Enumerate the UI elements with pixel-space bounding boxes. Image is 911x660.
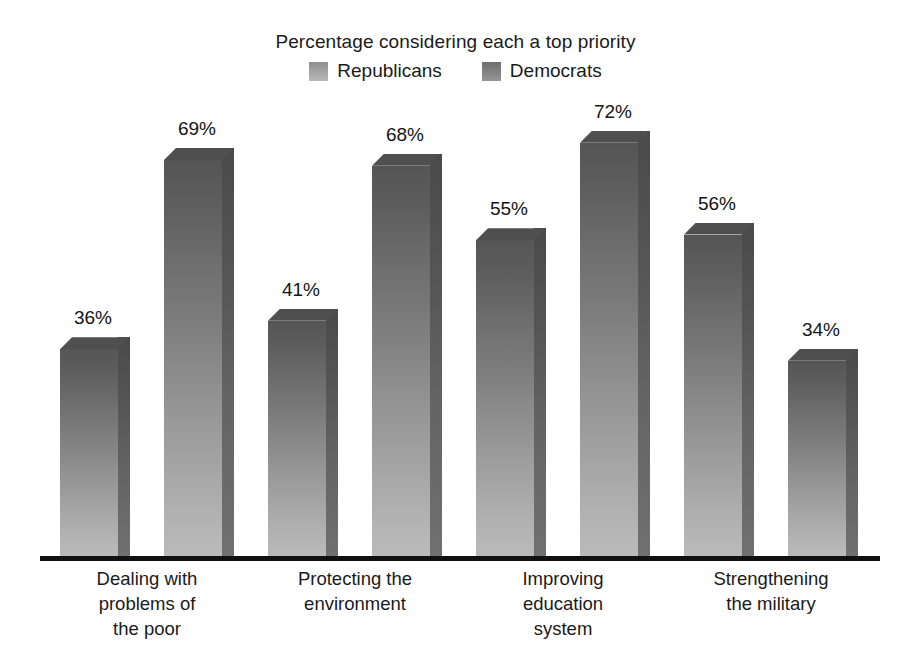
- bar-value-label: 56%: [682, 193, 752, 215]
- bar-side-face: [222, 148, 234, 556]
- x-axis-baseline: [40, 556, 880, 561]
- bar-value-label: 36%: [58, 307, 128, 329]
- category-label-line: the military: [671, 591, 871, 616]
- bar-side-face: [534, 228, 546, 556]
- bar-value-label: 34%: [786, 319, 856, 341]
- category-label-1: Dealing withproblems ofthe poor: [47, 566, 247, 641]
- bar-front-face: [476, 240, 534, 556]
- category-label-line: Protecting the: [255, 566, 455, 591]
- bar-side-face: [638, 131, 650, 556]
- bar-value-label: 72%: [578, 101, 648, 123]
- plot-area: 36%69%41%68%55%72%56%34% Dealing withpro…: [0, 0, 911, 660]
- bar-top-face: [268, 309, 338, 321]
- bar-side-face: [118, 337, 130, 556]
- bar-value-label: 68%: [370, 124, 440, 146]
- category-label-line: environment: [255, 591, 455, 616]
- category-label-line: education: [463, 591, 663, 616]
- bar-front-face: [372, 166, 430, 556]
- bar-top-face: [684, 223, 754, 235]
- bar-side-face: [846, 349, 858, 556]
- bar-side-face: [742, 223, 754, 556]
- category-label-4: Strengtheningthe military: [671, 566, 871, 616]
- bar-top-face: [788, 349, 858, 361]
- bar-value-label: 55%: [474, 198, 544, 220]
- category-label-line: the poor: [47, 616, 247, 641]
- category-label-line: system: [463, 616, 663, 641]
- bar-front-face: [268, 321, 326, 556]
- bar-top-face: [60, 337, 130, 349]
- bar-side-face: [326, 309, 338, 556]
- bar-side-face: [430, 154, 442, 556]
- category-label-line: problems of: [47, 591, 247, 616]
- category-label-line: Improving: [463, 566, 663, 591]
- bar-front-face: [164, 160, 222, 556]
- bar-chart: Percentage considering each a top priori…: [0, 0, 911, 660]
- category-label-2: Protecting theenvironment: [255, 566, 455, 616]
- bar-value-label: 41%: [266, 279, 336, 301]
- bar-top-face: [580, 131, 650, 143]
- bar-top-face: [372, 154, 442, 166]
- category-label-line: Dealing with: [47, 566, 247, 591]
- bar-front-face: [580, 143, 638, 556]
- bar-front-face: [788, 361, 846, 556]
- category-label-3: Improvingeducationsystem: [463, 566, 663, 641]
- bar-front-face: [684, 235, 742, 556]
- bar-front-face: [60, 349, 118, 556]
- bar-top-face: [476, 228, 546, 240]
- bar-value-label: 69%: [162, 118, 232, 140]
- category-label-line: Strengthening: [671, 566, 871, 591]
- bar-top-face: [164, 148, 234, 160]
